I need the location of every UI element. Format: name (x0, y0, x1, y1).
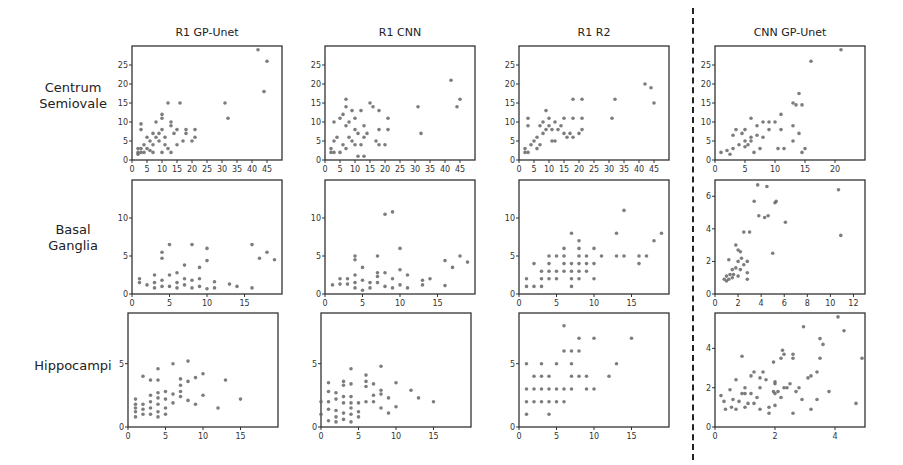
data-point (577, 349, 581, 353)
data-point (839, 234, 843, 238)
data-point (342, 383, 346, 387)
y-tick-label: 0 (123, 156, 128, 165)
data-point (175, 271, 179, 275)
x-tick-label: 8 (805, 299, 810, 308)
data-point (166, 147, 170, 151)
data-point (788, 382, 792, 386)
data-point (743, 392, 747, 396)
data-point (141, 402, 145, 406)
data-point (622, 209, 626, 213)
data-point (547, 413, 551, 417)
y-tick-label: 20 (505, 80, 515, 89)
data-point (391, 210, 395, 214)
data-point (742, 263, 746, 267)
data-point (731, 134, 735, 138)
data-point (571, 97, 575, 101)
data-point (142, 151, 146, 155)
data-point (728, 273, 732, 277)
data-point (171, 401, 175, 405)
x-tick-label: 0 (129, 165, 134, 174)
data-point (736, 274, 740, 278)
data-point (332, 120, 336, 124)
y-tick-label: 5 (316, 137, 321, 146)
scatter-plot-panel: 0510152025303540450510152025 (519, 46, 669, 160)
data-point (136, 153, 140, 157)
data-point (193, 135, 197, 139)
data-point (532, 285, 536, 289)
data-point (773, 120, 777, 124)
data-point (577, 337, 581, 341)
data-point (774, 199, 778, 203)
data-point (341, 113, 345, 117)
data-point (749, 392, 753, 396)
data-point (743, 139, 747, 143)
data-point (727, 258, 731, 262)
data-point (580, 128, 584, 132)
x-tick-label: 15 (626, 432, 636, 441)
data-point (151, 143, 155, 147)
data-point (175, 281, 179, 285)
data-point (731, 147, 735, 151)
data-point (585, 387, 589, 391)
data-point (387, 411, 391, 415)
data-point (782, 147, 786, 151)
data-point (613, 97, 617, 101)
y-tick-label: 10 (311, 118, 321, 127)
data-point (749, 374, 753, 378)
data-point (379, 392, 383, 396)
data-point (341, 143, 345, 147)
data-point (332, 139, 336, 143)
data-point (364, 380, 368, 384)
data-point (327, 381, 331, 385)
data-point (743, 145, 747, 149)
data-point (570, 277, 574, 281)
data-point (547, 124, 551, 128)
data-point (329, 147, 333, 151)
x-tick-label: 0 (322, 165, 327, 174)
data-point (349, 382, 353, 386)
data-point (156, 410, 160, 414)
data-point (374, 139, 378, 143)
data-point (383, 212, 387, 216)
y-tick-label: 0 (119, 423, 124, 432)
data-point (223, 101, 227, 105)
data-point (577, 247, 581, 251)
x-tick-label: 15 (239, 299, 249, 308)
x-tick-label: 20 (380, 165, 390, 174)
data-point (160, 250, 164, 254)
data-point (138, 281, 142, 285)
scatter-plot-panel: 0510150510 (325, 180, 475, 294)
data-point (186, 380, 190, 384)
data-point (327, 390, 331, 394)
x-tick-label: 10 (395, 299, 405, 308)
data-point (526, 124, 530, 128)
data-point (145, 135, 149, 139)
data-point (179, 383, 183, 387)
y-tick-label: 0 (510, 156, 515, 165)
data-point (338, 277, 342, 281)
x-tick-label: 0 (712, 165, 717, 174)
data-point (353, 116, 357, 120)
data-point (547, 116, 551, 120)
data-point (353, 128, 357, 132)
data-point (737, 143, 741, 147)
data-point (205, 247, 209, 251)
y-tick-label: 10 (505, 214, 515, 223)
data-point (752, 370, 756, 374)
data-point (334, 391, 338, 395)
data-point (149, 394, 153, 398)
data-point (186, 359, 190, 363)
data-point (571, 135, 575, 139)
x-tick-label: 2 (772, 432, 777, 441)
data-point (592, 387, 596, 391)
data-point (550, 128, 554, 132)
data-point (359, 143, 363, 147)
data-point (139, 147, 143, 151)
x-tick-label: 0 (712, 432, 717, 441)
data-point (362, 124, 366, 128)
data-point (160, 128, 164, 132)
data-point (353, 286, 357, 290)
data-point (213, 280, 217, 284)
data-point (547, 254, 551, 258)
data-point (406, 273, 410, 277)
